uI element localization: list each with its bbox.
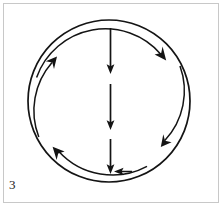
center-down-arrows-group [107, 28, 115, 174]
arc-bottom-right [165, 66, 185, 141]
arc-top-left [34, 63, 52, 137]
arrowhead-bottom-left-icon [53, 147, 65, 160]
figure-panel: 3 [0, 0, 223, 208]
outer-circle [28, 20, 190, 182]
inner-arrow-ring-group [34, 29, 184, 175]
arc-top-right [37, 29, 161, 78]
outer-circle-group [28, 20, 190, 182]
figure-number-label: 3 [9, 178, 16, 191]
arc-bottom-left [59, 151, 147, 175]
arrowhead-bottom-right-icon [161, 134, 172, 147]
circular-flow-diagram [0, 0, 223, 208]
